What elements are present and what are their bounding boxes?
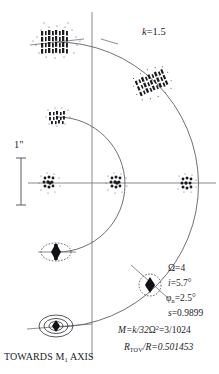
annotation-mass-tail: =3/1024 (159, 325, 191, 335)
marker-lower-vertical (38, 243, 76, 261)
annotation-inclination-value: =5.7° (171, 278, 192, 288)
annotation-inclination: i=5.7° (168, 279, 192, 289)
annotation-mass-mid: =k/32 (126, 325, 149, 335)
annotation-omega: Ω=4 (168, 264, 185, 274)
annotation-phi-value: =2.5° (175, 293, 196, 303)
marker-bottom-vertical (27, 315, 92, 337)
annotation-mass-omega: Ω (149, 325, 156, 335)
scale-bar-label: 1" (14, 140, 24, 151)
cluster-mid-vertical (46, 108, 71, 127)
annotation-phi: φn=2.5° (166, 294, 196, 304)
axis-caption-base: TOWARDS M (4, 351, 64, 362)
annotation-mass-lead: M (118, 325, 126, 335)
annotation-omega-symbol: Ω (168, 263, 175, 273)
annotation-radius-expression: /R=0.501453 (143, 342, 193, 352)
figure-canvas: k=1.5 1" Ω=4 i=5.7° φn=2.5° s=0.9899 M=k… (0, 0, 219, 374)
marker-lower-right-arc (131, 265, 168, 298)
annotation-radius-ratio: RTOV/R=0.501453 (124, 343, 193, 353)
annotation-s-value: =0.9899 (172, 308, 203, 318)
annotation-radius-subscript: TOV (130, 347, 143, 353)
annotation-k-value: =1.5 (147, 26, 166, 37)
annotation-s: s=0.9899 (168, 309, 203, 319)
cluster-upper-right-arc (129, 62, 176, 104)
annotation-mass: M=k/32Ω2=3/1024 (118, 325, 191, 335)
annotation-k: k=1.5 (142, 27, 166, 38)
inner-arc (57, 117, 125, 252)
scale-bar (16, 158, 26, 205)
annotation-omega-value: =4 (175, 263, 185, 273)
connector-top-right (101, 39, 118, 44)
axis-caption: TOWARDS M1 AXIS (4, 352, 94, 363)
axis-caption-tail: AXIS (68, 351, 94, 362)
